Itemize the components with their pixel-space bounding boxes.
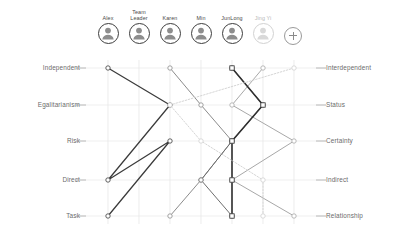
- data-point[interactable]: [106, 214, 110, 218]
- data-point[interactable]: [168, 139, 172, 143]
- data-point[interactable]: [168, 214, 172, 218]
- data-point[interactable]: [199, 178, 203, 182]
- data-point[interactable]: [292, 139, 296, 143]
- data-point[interactable]: [230, 214, 234, 218]
- data-point[interactable]: [261, 178, 265, 182]
- data-point[interactable]: [168, 103, 172, 107]
- data-point[interactable]: [230, 66, 234, 70]
- data-point[interactable]: [261, 214, 265, 218]
- data-point[interactable]: [292, 66, 296, 70]
- data-point[interactable]: [230, 103, 234, 107]
- data-point[interactable]: [292, 214, 296, 218]
- data-point[interactable]: [106, 178, 110, 182]
- series-line-junlong[interactable]: [232, 68, 263, 216]
- data-point[interactable]: [199, 139, 203, 143]
- data-point[interactable]: [230, 178, 234, 182]
- parallel-coordinates-chart: [0, 0, 397, 240]
- data-point[interactable]: [106, 66, 110, 70]
- data-point[interactable]: [261, 66, 265, 70]
- data-point[interactable]: [199, 103, 203, 107]
- data-point[interactable]: [261, 103, 265, 107]
- data-point[interactable]: [168, 66, 172, 70]
- data-point[interactable]: [230, 139, 234, 143]
- culture-map-screen: Alex Team Leader Karen: [0, 0, 397, 240]
